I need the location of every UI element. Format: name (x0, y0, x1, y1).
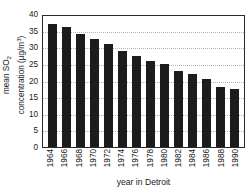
x-tick-label: 1972 (104, 149, 112, 167)
bar-chart-figure: mean SO2 concentration (µg/m3) 051015202… (0, 0, 249, 195)
bar-1968 (76, 34, 85, 147)
x-tick-1974: 1974 (118, 149, 127, 177)
bar-1984 (188, 74, 197, 147)
bar-1966 (62, 27, 71, 147)
x-tick-label: 1968 (75, 149, 83, 167)
bar-1986 (202, 79, 211, 147)
bar-1988 (216, 87, 225, 147)
bar-1990 (230, 89, 239, 147)
y-tick-15: 15 (29, 94, 38, 102)
x-tick-label: 1986 (203, 149, 211, 167)
x-tick-1986: 1986 (203, 149, 212, 177)
y-tick-30: 30 (29, 44, 38, 52)
y-axis-title-line1: mean SO2 (2, 36, 14, 115)
x-tick-label: 1990 (232, 149, 240, 167)
bar-1980 (160, 64, 169, 147)
x-tick-label: 1982 (175, 149, 183, 167)
x-tick-label: 1966 (61, 149, 69, 167)
bar-1982 (174, 71, 183, 147)
x-axis-title: year in Detroit (42, 177, 245, 187)
bar-1976 (132, 56, 141, 147)
y-tick-40: 40 (29, 11, 38, 19)
x-tick-label: 1978 (146, 149, 154, 167)
x-tick-label: 1976 (132, 149, 140, 167)
x-tick-1968: 1968 (75, 149, 84, 177)
x-tick-label: 1988 (217, 149, 225, 167)
y-tick-10: 10 (29, 111, 38, 119)
x-tick-label: 1974 (118, 149, 126, 167)
x-tick-label: 1980 (161, 149, 169, 167)
y-tick-25: 25 (29, 61, 38, 69)
y-axis-tick-labels: 0510152025303540 (24, 15, 40, 148)
bar-1978 (146, 61, 155, 147)
x-tick-1990: 1990 (231, 149, 240, 177)
bar-1964 (48, 24, 57, 147)
x-tick-1970: 1970 (89, 149, 98, 177)
x-tick-1982: 1982 (174, 149, 183, 177)
x-tick-1980: 1980 (160, 149, 169, 177)
x-tick-label: 1970 (90, 149, 98, 167)
y-tick-0: 0 (33, 144, 38, 152)
bar-1970 (90, 39, 99, 147)
x-tick-1988: 1988 (217, 149, 226, 177)
bars-container (43, 16, 244, 147)
bar-1974 (118, 51, 127, 147)
x-tick-1978: 1978 (146, 149, 155, 177)
x-tick-1966: 1966 (61, 149, 70, 177)
x-tick-1972: 1972 (103, 149, 112, 177)
plot-area (42, 15, 245, 148)
y-tick-35: 35 (29, 28, 38, 36)
y-tick-5: 5 (33, 127, 38, 135)
y-tick-20: 20 (29, 77, 38, 85)
y-axis-title-subscript: 2 (5, 56, 12, 59)
x-tick-label: 1984 (189, 149, 197, 167)
bar-1972 (104, 44, 113, 147)
x-axis-tick-labels: 1964196619681970197219741976197819801982… (42, 149, 245, 177)
x-tick-1964: 1964 (47, 149, 56, 177)
y-axis-title-superscript: 3 (15, 38, 22, 41)
x-tick-label: 1964 (47, 149, 55, 167)
x-tick-1976: 1976 (132, 149, 141, 177)
x-tick-1984: 1984 (189, 149, 198, 177)
